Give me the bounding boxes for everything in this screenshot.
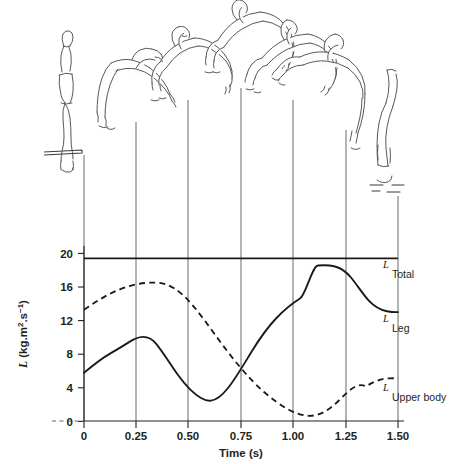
series-label-leg: L Leg xyxy=(382,313,410,334)
x-tick-label: 0.50 xyxy=(177,430,199,442)
x-tick-label: 0.75 xyxy=(230,430,253,442)
y-tick-label: 12 xyxy=(60,315,73,327)
series-symbol-leg: L xyxy=(382,313,389,324)
y-axis-close: ) xyxy=(17,300,29,304)
x-tick-labels: 0 0.25 0.50 0.75 1.00 1.25 1.50 xyxy=(81,430,409,442)
y-tick-label: 16 xyxy=(60,281,73,293)
diver-figure-7 xyxy=(377,69,397,182)
series-name-total: Total xyxy=(392,268,414,280)
y-axis-open: (kg.m xyxy=(17,327,29,361)
diver-figure-2 xyxy=(97,48,176,129)
x-tick-label: 1.50 xyxy=(387,430,409,442)
water-surface xyxy=(370,185,404,192)
y-axis-symbol: L xyxy=(17,361,29,369)
series-symbol-total: L xyxy=(382,259,389,270)
y-axis-title: L (kg.m2.s−1) xyxy=(16,300,30,369)
angular-momentum-diving-figure: 20 16 12 8 4 0 0 0.25 0.50 0.75 1.00 1.2… xyxy=(0,0,457,464)
y-tick-labels: 20 16 12 8 4 0 xyxy=(60,248,73,428)
x-axis-title: Time (s) xyxy=(219,447,263,459)
diver-figure-4 xyxy=(205,0,294,73)
series-symbol-upper-body: L xyxy=(382,382,389,393)
y-tick-label: 0 xyxy=(67,416,73,428)
x-tick-label: 1.00 xyxy=(282,430,304,442)
y-tick-label: 8 xyxy=(67,348,74,360)
x-tick-label: 0.25 xyxy=(125,430,148,442)
y-tick-label: 4 xyxy=(67,382,74,394)
series-label-upper-body: L Upper body xyxy=(382,382,447,403)
plot-axes xyxy=(52,246,404,428)
series-name-upper-body: Upper body xyxy=(392,391,447,403)
x-tick-label: 1.25 xyxy=(335,430,358,442)
x-tick-label: 0 xyxy=(81,430,87,442)
series-name-leg: Leg xyxy=(392,322,410,334)
y-axis-mid: .s xyxy=(17,313,29,323)
diving-board xyxy=(44,150,82,155)
y-tick-label: 20 xyxy=(60,248,73,260)
svg-text:L (kg.m2.s−1): L (kg.m2.s−1) xyxy=(16,300,30,369)
diving-sequence-illustration xyxy=(44,0,404,192)
